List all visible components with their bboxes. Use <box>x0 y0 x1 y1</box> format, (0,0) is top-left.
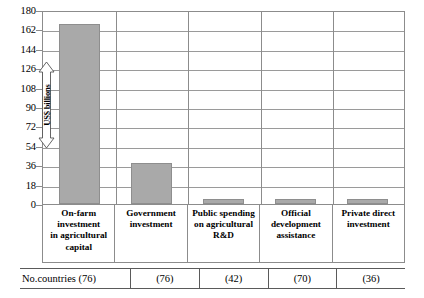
category-label-cell: Governmentinvestment <box>115 205 187 262</box>
y-axis-tick-label: 108 <box>21 83 36 94</box>
y-axis-tick-label: 180 <box>21 6 36 17</box>
bar <box>203 199 244 204</box>
y-axis-tick-label: 162 <box>21 25 36 36</box>
category-label: Public spendingon agriculturalR&D <box>190 208 257 242</box>
y-axis-tick-label: 18 <box>26 180 36 191</box>
y-axis-tick-label: 126 <box>21 64 36 75</box>
bar-cell <box>115 12 187 204</box>
y-axis: 18016214412610890725436180 <box>0 0 42 205</box>
y-axis-tick-label: 36 <box>26 161 36 172</box>
bar-cell <box>332 12 404 204</box>
category-label-cell: On-farminvestmentin agriculturalcapital <box>43 205 115 262</box>
y-axis-tick-label: 90 <box>26 103 36 114</box>
footer-cells: (76)(42)(70)(36) <box>130 269 405 288</box>
y-axis-tick-label: 54 <box>26 142 36 153</box>
plot-area <box>42 11 405 205</box>
y-axis-title-text-wrap: US$ billions <box>38 62 55 148</box>
y-axis-title: US$ billions <box>42 84 52 125</box>
category-label: Officialdevelopmentassistance <box>269 208 323 242</box>
bar-chart-figure: 18016214412610890725436180 US$ billions … <box>0 0 424 298</box>
category-label-cell: Private directinvestment <box>333 205 404 262</box>
y-axis-title-banner: US$ billions <box>38 62 55 148</box>
footer-cell: (36) <box>336 269 405 288</box>
y-axis-tick-label: 72 <box>26 122 36 133</box>
category-label-cell: Officialdevelopmentassistance <box>260 205 332 262</box>
footer-table: No.countries (76) (76)(42)(70)(36) <box>20 268 405 289</box>
bar <box>275 199 316 204</box>
footer-cell: (70) <box>268 269 337 288</box>
footer-cell: (42) <box>199 269 268 288</box>
bar <box>347 199 388 204</box>
y-axis-tick-label: 144 <box>21 45 36 56</box>
category-label: Governmentinvestment <box>124 208 178 230</box>
bar-cell <box>260 12 332 204</box>
bar <box>131 163 172 204</box>
bar-cell <box>187 12 259 204</box>
category-label-row: On-farminvestmentin agriculturalcapitalG… <box>42 205 405 263</box>
footer-row-label: No.countries (76) <box>20 269 130 288</box>
footer-cell: (76) <box>131 269 199 288</box>
category-label-cell: Public spendingon agriculturalR&D <box>188 205 260 262</box>
bar-series <box>43 12 404 204</box>
bar <box>59 24 100 204</box>
category-label: On-farminvestmentin agriculturalcapital <box>48 208 109 253</box>
category-label: Private directinvestment <box>340 208 398 230</box>
